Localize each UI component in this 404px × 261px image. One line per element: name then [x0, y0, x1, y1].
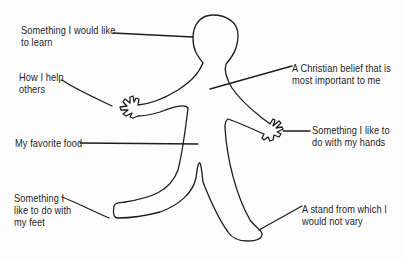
label-line: Something I — [14, 192, 71, 204]
label-line: do with my hands — [312, 136, 390, 148]
label-do-with-hands: Something I like to do with my hands — [312, 124, 390, 148]
label-something-to-learn: Something I would like to learn — [21, 24, 115, 48]
label-christian-belief: A Christian belief that is most importan… — [292, 62, 391, 86]
body-outline — [113, 15, 283, 241]
label-line: A stand from which I — [302, 203, 387, 215]
leader-help — [62, 80, 112, 106]
leader-learn — [113, 33, 193, 37]
label-line: to learn — [21, 36, 115, 48]
label-how-i-help-others: How I help others — [19, 71, 64, 95]
label-do-with-feet: Something I like to do with my feet — [14, 192, 71, 228]
label-line: my feet — [14, 216, 71, 228]
label-stand-would-not-vary: A stand from which I would not vary — [302, 203, 387, 227]
label-line: How I help — [19, 71, 64, 83]
label-line: Something I like to — [312, 124, 390, 136]
label-favorite-food: My favorite food — [15, 137, 82, 149]
label-line: like to do with — [14, 204, 71, 216]
label-line: would not vary — [302, 215, 387, 227]
label-line: My favorite food — [15, 137, 82, 149]
label-line: most important to me — [292, 74, 391, 86]
leader-belief — [210, 66, 292, 89]
leader-food — [80, 143, 198, 144]
diagram-canvas: Something I would like to learn How I he… — [0, 0, 404, 261]
leader-stand — [259, 206, 302, 230]
label-line: A Christian belief that is — [292, 62, 391, 74]
label-line: others — [19, 83, 64, 95]
label-line: Something I would like — [21, 24, 115, 36]
